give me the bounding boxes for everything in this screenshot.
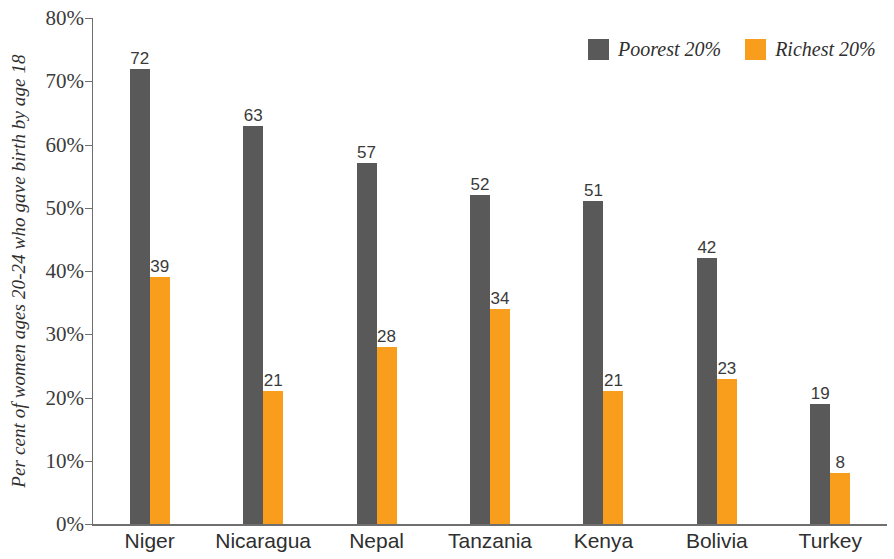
- chart-legend: Poorest 20%Richest 20%: [588, 38, 876, 61]
- bar-richest[interactable]: 39: [150, 277, 170, 524]
- y-axis-tick-label: 50%: [22, 195, 84, 220]
- y-axis-tick-label: 40%: [22, 259, 84, 284]
- y-axis-tick-label: 60%: [22, 132, 84, 157]
- bar-value-label: 51: [584, 182, 603, 199]
- x-axis-tick-label: Nepal: [349, 529, 404, 553]
- y-axis-tick-mark: [85, 145, 92, 146]
- bar-group: 5234: [470, 18, 510, 524]
- y-axis-tick-mark: [85, 524, 92, 525]
- y-axis-tick-label: 80%: [22, 6, 84, 31]
- legend-item[interactable]: Poorest 20%: [588, 38, 721, 61]
- bar-value-label: 57: [357, 144, 376, 161]
- y-axis-tick-mark: [85, 271, 92, 272]
- bar-poorest[interactable]: 19: [810, 404, 830, 524]
- bar-group: 7239: [130, 18, 170, 524]
- x-axis-tick-label: Turkey: [799, 529, 862, 553]
- legend-label: Poorest 20%: [618, 38, 721, 61]
- x-axis-tick-label: Nicaragua: [215, 529, 311, 553]
- bar-value-label: 42: [697, 239, 716, 256]
- x-axis-tick-label: Tanzania: [448, 529, 532, 553]
- bar-poorest[interactable]: 57: [357, 163, 377, 524]
- y-axis-tick-label: 20%: [22, 385, 84, 410]
- plot-area: 723963215728523451214223198: [93, 18, 887, 524]
- legend-swatch-richest: [745, 39, 766, 60]
- x-axis-line: [92, 524, 887, 526]
- y-axis-tick-label: 0%: [22, 512, 84, 537]
- bar-richest[interactable]: 21: [263, 391, 283, 524]
- bar-poorest[interactable]: 63: [243, 126, 263, 524]
- y-axis-tick-mark: [85, 398, 92, 399]
- y-axis-tick-mark: [85, 461, 92, 462]
- bar-richest[interactable]: 28: [377, 347, 397, 524]
- legend-item[interactable]: Richest 20%: [745, 38, 876, 61]
- bar-richest[interactable]: 21: [603, 391, 623, 524]
- y-axis-tick-label: 10%: [22, 448, 84, 473]
- legend-swatch-poorest: [588, 39, 609, 60]
- bar-group: 5121: [583, 18, 623, 524]
- bar-group: 4223: [697, 18, 737, 524]
- bar-poorest[interactable]: 51: [583, 201, 603, 524]
- bar-value-label: 72: [130, 50, 149, 67]
- bar-value-label: 21: [604, 372, 623, 389]
- bar-value-label: 19: [811, 385, 830, 402]
- legend-label: Richest 20%: [775, 38, 876, 61]
- bar-value-label: 23: [717, 360, 736, 377]
- bar-poorest[interactable]: 72: [130, 69, 150, 524]
- bar-chart: Per cent of women ages 20-24 who gave bi…: [0, 0, 894, 559]
- bar-poorest[interactable]: 42: [697, 258, 717, 524]
- x-axis-tick-label: Kenya: [574, 529, 634, 553]
- bar-value-label: 39: [150, 258, 169, 275]
- bar-group: 5728: [357, 18, 397, 524]
- bar-richest[interactable]: 23: [717, 379, 737, 524]
- bar-value-label: 8: [836, 454, 845, 471]
- y-axis-tick-mark: [85, 81, 92, 82]
- y-axis-tick-label: 30%: [22, 322, 84, 347]
- bar-group: 198: [810, 18, 850, 524]
- y-axis-tick-mark: [85, 208, 92, 209]
- bar-value-label: 21: [264, 372, 283, 389]
- bar-value-label: 52: [471, 176, 490, 193]
- x-axis-tick-label: Bolivia: [686, 529, 748, 553]
- bar-value-label: 63: [244, 107, 263, 124]
- y-axis-tick-labels: 0%10%20%30%40%50%60%70%80%: [22, 0, 84, 559]
- x-axis-tick-label: Niger: [125, 529, 175, 553]
- bar-richest[interactable]: 34: [490, 309, 510, 524]
- y-axis-tick-mark: [85, 18, 92, 19]
- bar-richest[interactable]: 8: [830, 473, 850, 524]
- bar-group: 6321: [243, 18, 283, 524]
- x-axis-tick-labels: NigerNicaraguaNepalTanzaniaKenyaBoliviaT…: [93, 529, 887, 559]
- y-axis-tick-label: 70%: [22, 69, 84, 94]
- y-axis-tick-mark: [85, 334, 92, 335]
- bar-poorest[interactable]: 52: [470, 195, 490, 524]
- bar-value-label: 34: [491, 290, 510, 307]
- bar-value-label: 28: [377, 328, 396, 345]
